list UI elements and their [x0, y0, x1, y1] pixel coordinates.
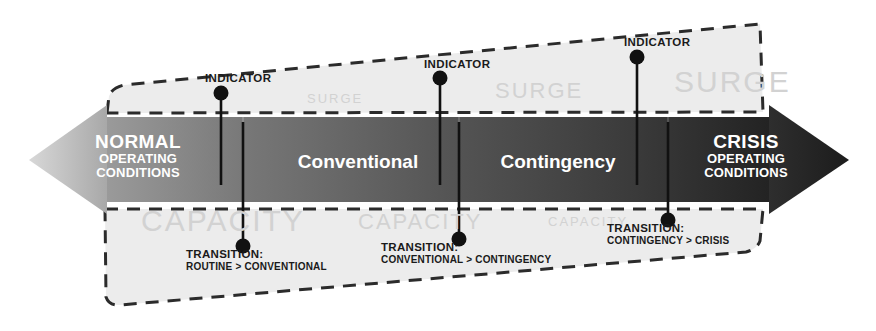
transition-3-detail: CONTINGENCY > CRISIS	[607, 236, 729, 247]
crisis-line3: CONDITIONS	[686, 166, 806, 180]
transition-2-detail: CONVENTIONAL > CONTINGENCY	[381, 255, 551, 266]
indicator-label-3: INDICATOR	[624, 36, 690, 48]
normal-title: NORMAL	[78, 132, 198, 152]
crisis-title: CRISIS	[686, 132, 806, 152]
capacity-label-1: CAPACITY	[141, 205, 305, 237]
transition-1-detail: ROUTINE > CONVENTIONAL	[186, 262, 327, 273]
crisis-operating-conditions-label: CRISIS OPERATING CONDITIONS	[686, 132, 806, 179]
surge-label-3: SURGE	[674, 66, 791, 98]
band-segment-conventional: Conventional	[268, 152, 448, 172]
transition-callout-3: TRANSITION: CONTINGENCY > CRISIS	[607, 222, 729, 247]
indicator-dot-1[interactable]	[214, 86, 229, 101]
transition-3-title: TRANSITION:	[607, 222, 729, 234]
normal-line3: CONDITIONS	[78, 166, 198, 180]
capacity-label-2: CAPACITY	[358, 210, 482, 233]
indicator-dot-2[interactable]	[433, 71, 448, 86]
indicator-dot-3[interactable]	[630, 50, 645, 65]
transition-callout-2: TRANSITION: CONVENTIONAL > CONTINGENCY	[381, 241, 551, 266]
surge-label-2: SURGE	[495, 79, 583, 102]
band-segment-contingency: Contingency	[468, 152, 648, 172]
surge-label-1: SURGE	[307, 92, 363, 106]
crisis-line2: OPERATING	[686, 152, 806, 166]
normal-operating-conditions-label: NORMAL OPERATING CONDITIONS	[78, 132, 198, 179]
indicator-label-2: INDICATOR	[424, 58, 490, 70]
normal-line2: OPERATING	[78, 152, 198, 166]
transition-callout-1: TRANSITION: ROUTINE > CONVENTIONAL	[186, 248, 327, 273]
transition-1-title: TRANSITION:	[186, 248, 327, 260]
surge-capacity-diagram: SURGE SURGE SURGE CAPACITY CAPACITY CAPA…	[0, 0, 876, 331]
transition-2-title: TRANSITION:	[381, 241, 551, 253]
indicator-label-1: INDICATOR	[205, 72, 271, 84]
